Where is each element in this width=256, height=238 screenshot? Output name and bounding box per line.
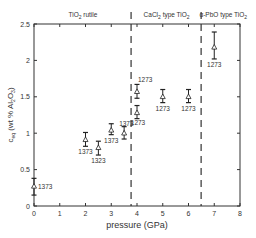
data-point: 1373 xyxy=(104,124,119,144)
phase-labels: TiO2 rutileCaCl2 type TiO2α-PbO type TiO… xyxy=(68,11,247,20)
x-tick-label: 0 xyxy=(32,210,36,217)
temperature-label: 1373 xyxy=(104,137,119,144)
temperature-label: 1373 xyxy=(78,148,93,155)
triangle-marker-icon xyxy=(83,137,88,142)
triangle-marker-icon xyxy=(135,110,140,115)
x-tick-label: 5 xyxy=(161,210,165,217)
triangle-marker-icon xyxy=(32,184,37,189)
phase-label: α-PbO type TiO2 xyxy=(199,11,247,20)
temperature-label: 1273 xyxy=(138,76,153,83)
triangle-marker-icon xyxy=(212,44,217,49)
temperature-label: 1273 xyxy=(131,119,146,126)
triangle-marker-icon xyxy=(160,94,165,99)
y-tick-label: 1 xyxy=(26,130,30,137)
data-point: 1273 xyxy=(181,90,196,112)
triangle-marker-icon xyxy=(186,94,191,99)
data-point: 1323 xyxy=(91,141,106,164)
x-tick-label: 8 xyxy=(238,210,242,217)
x-tick-label: 3 xyxy=(109,210,113,217)
y-axis-label: ceq (wt % Al2O3) xyxy=(6,87,16,142)
x-tick-label: 4 xyxy=(135,210,139,217)
data-points: 1373137313231373137312731273127312731273 xyxy=(32,32,222,195)
data-point: 1373 xyxy=(32,178,53,195)
temperature-label: 1273 xyxy=(181,105,196,112)
x-tick-label: 1 xyxy=(58,210,62,217)
phase-label: CaCl2 type TiO2 xyxy=(144,11,190,20)
data-point: 1273 xyxy=(207,32,222,68)
x-tick-label: 6 xyxy=(187,210,191,217)
scatter-chart: TiO2 rutileCaCl2 type TiO2α-PbO type TiO… xyxy=(0,0,256,238)
temperature-label: 1273 xyxy=(207,61,222,68)
x-tick-label: 7 xyxy=(212,210,216,217)
y-tick-label: 0.5 xyxy=(20,166,30,173)
y-axis: 00.511.522.5 xyxy=(20,21,240,210)
y-tick-label: 2 xyxy=(26,57,30,64)
data-point: 1373 xyxy=(78,132,93,155)
y-tick-label: 0 xyxy=(26,203,30,210)
temperature-label: 1273 xyxy=(156,105,171,112)
triangle-marker-icon xyxy=(135,89,140,94)
temperature-label: 1323 xyxy=(91,157,106,164)
triangle-marker-icon xyxy=(122,130,127,135)
temperature-label: 1373 xyxy=(38,183,53,190)
triangle-marker-icon xyxy=(109,127,114,132)
x-axis-label: pressure (GPa) xyxy=(106,220,168,230)
y-tick-label: 1.5 xyxy=(20,93,30,100)
triangle-marker-icon xyxy=(96,145,101,150)
y-tick-label: 2.5 xyxy=(20,21,30,28)
data-point: 1273 xyxy=(131,106,146,126)
x-tick-label: 2 xyxy=(84,210,88,217)
data-point: 1273 xyxy=(156,90,171,112)
data-point: 1273 xyxy=(135,76,153,98)
phase-label: TiO2 rutile xyxy=(68,11,97,20)
